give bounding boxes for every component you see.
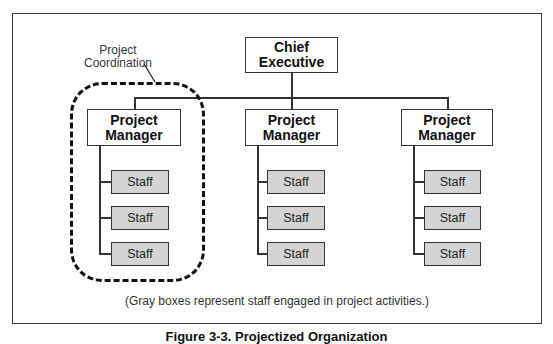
staff-spine-3 bbox=[413, 146, 415, 254]
connector-pm3-up bbox=[447, 97, 449, 109]
connector-chief-down bbox=[291, 73, 293, 97]
staff-box: Staff bbox=[267, 170, 325, 194]
chief-executive-line2: Executive bbox=[259, 55, 324, 70]
staff-box: Staff bbox=[424, 242, 481, 266]
project-coordination-outline bbox=[70, 82, 205, 282]
staff-box: Staff bbox=[267, 206, 325, 230]
pm3-line2: Manager bbox=[418, 128, 476, 143]
pm3-line1: Project bbox=[418, 113, 476, 128]
chief-executive-line1: Chief bbox=[259, 40, 324, 55]
staff-box: Staff bbox=[267, 242, 325, 266]
coordination-pointer-arrow bbox=[140, 60, 160, 86]
staff-box: Staff bbox=[424, 206, 481, 230]
staff-tick bbox=[413, 217, 424, 219]
project-manager-box-2: Project Manager bbox=[245, 109, 338, 146]
project-manager-box-3: Project Manager bbox=[401, 109, 493, 146]
staff-tick bbox=[257, 253, 267, 255]
staff-tick bbox=[257, 217, 267, 219]
staff-box: Staff bbox=[424, 170, 481, 194]
chief-executive-box: Chief Executive bbox=[245, 37, 338, 73]
staff-spine-2 bbox=[257, 146, 259, 254]
pm2-line1: Project bbox=[263, 113, 321, 128]
pm2-line2: Manager bbox=[263, 128, 321, 143]
footnote: (Gray boxes represent staff engaged in p… bbox=[12, 294, 542, 308]
staff-tick bbox=[257, 181, 267, 183]
connector-pm2-up bbox=[291, 97, 293, 109]
figure-caption: Figure 3-3. Projectized Organization bbox=[0, 329, 553, 344]
staff-tick bbox=[413, 181, 424, 183]
staff-tick bbox=[413, 253, 424, 255]
